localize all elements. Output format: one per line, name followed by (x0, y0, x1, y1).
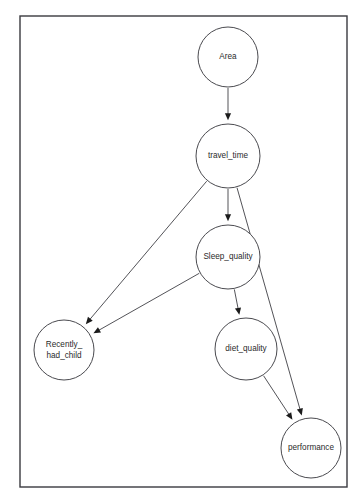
edge-Sleep_quality-to-Recently_had_child (93, 273, 199, 333)
dag-svg: Areatravel_timeSleep_qualityRecently_had… (0, 0, 363, 503)
arrow-head-icon (235, 307, 241, 314)
node-label: performance (288, 443, 334, 452)
diagram-canvas: Areatravel_timeSleep_qualityRecently_had… (0, 0, 363, 503)
edge-travel_time-to-Recently_had_child (86, 181, 207, 324)
node-Recently_had_child[interactable]: Recently_had_child (34, 320, 94, 380)
arrow-head-icon (225, 113, 231, 120)
node-label: Area (219, 52, 237, 61)
node-Area[interactable]: Area (198, 27, 258, 87)
edge-travel_time-to-performance (237, 188, 303, 416)
node-label: travel_time (208, 151, 248, 160)
edge-line (264, 376, 292, 418)
edge-Area-to-travel_time (225, 88, 231, 120)
edge-line (87, 181, 206, 322)
node-label: Sleep_quality (203, 252, 253, 261)
diagram-frame (20, 16, 347, 487)
edge-diet_quality-to-performance (264, 376, 293, 420)
edge-line (95, 273, 199, 332)
nodes-layer: Areatravel_timeSleep_qualityRecently_had… (34, 27, 341, 478)
node-Sleep_quality[interactable]: Sleep_quality (196, 225, 260, 289)
arrow-head-icon (93, 327, 101, 333)
node-performance[interactable]: performance (281, 418, 341, 478)
arrow-head-icon (225, 214, 231, 221)
node-diet_quality[interactable]: diet_quality (215, 318, 277, 380)
node-label: diet_quality (225, 344, 267, 353)
arrow-head-icon (286, 412, 292, 420)
node-travel_time[interactable]: travel_time (196, 124, 260, 188)
edges-layer (86, 88, 303, 420)
arrow-head-icon (297, 408, 303, 416)
edge-Sleep_quality-to-diet_quality (234, 289, 241, 314)
edge-travel_time-to-Sleep_quality (225, 189, 231, 221)
